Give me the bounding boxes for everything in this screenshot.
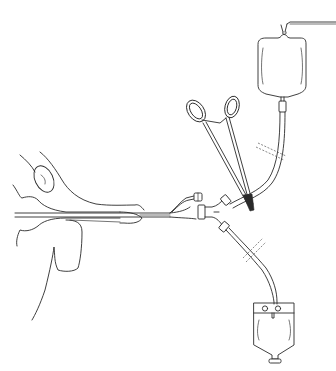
y-connector-icon	[205, 194, 231, 232]
tubing-break-bottom-icon	[243, 238, 266, 262]
hanger-hook-icon	[281, 22, 336, 35]
drainage-bag-icon	[254, 303, 294, 363]
hemostat-clamp-icon	[183, 95, 254, 211]
outflow-tubing	[226, 228, 277, 304]
anatomy-outline	[13, 152, 144, 320]
three-way-catheter-hub	[170, 193, 205, 219]
catheter-shaft	[15, 213, 170, 217]
inflow-tubing	[230, 112, 285, 208]
illustration-canvas: continuous bladder irrigation setup with…	[0, 0, 336, 371]
irrigation-bag-icon	[258, 34, 306, 112]
